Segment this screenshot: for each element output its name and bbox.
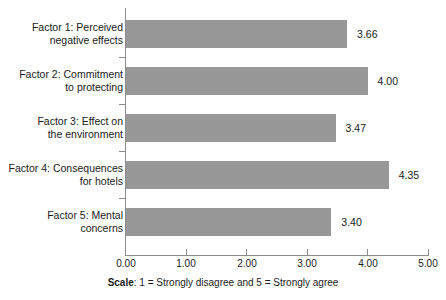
y-axis-tick [119,104,126,105]
bar-factor-2[interactable] [126,67,368,95]
category-label-factor-2: Factor 2: Commitment to protecting [5,68,123,94]
plot-area: 3.66 4.00 3.47 4.35 3.40 [126,8,428,255]
horizontal-bar-chart: Factor 1: Perceived negative effects Fac… [0,0,446,300]
x-axis-line [125,255,429,256]
bar-factor-4[interactable] [126,161,389,189]
x-axis-tick-label: 5.00 [408,258,446,269]
category-label-factor-5: Factor 5: Mental concerns [5,209,123,235]
category-label-line: for hotels [5,175,123,188]
category-label-line: Factor 2: Commitment [5,68,123,81]
x-axis-tick-label: 3.00 [287,258,327,269]
category-label-line: Factor 1: Perceived [5,21,123,34]
category-label-line: the environment [5,128,123,141]
chart-caption: Scale: 1 = Strongly disagree and 5 = Str… [0,277,446,288]
x-axis-tick-label: 0.00 [106,258,146,269]
bar-factor-5[interactable] [126,208,331,236]
caption-bold-prefix: Scale [108,277,134,288]
category-label-line: Factor 4: Consequences [5,162,123,175]
bar-value-label-factor-3: 3.47 [346,114,366,142]
category-label-factor-3: Factor 3: Effect on the environment [5,115,123,141]
bar-factor-1[interactable] [126,20,347,48]
y-axis-tick [119,57,126,58]
bar-value-label-factor-2: 4.00 [378,67,398,95]
x-axis-tick [428,249,429,256]
bar-value-label-factor-1: 3.66 [357,20,377,48]
category-label-line: Factor 5: Mental [5,209,123,222]
category-label-factor-1: Factor 1: Perceived negative effects [5,21,123,47]
x-axis-tick-label: 2.00 [227,258,267,269]
category-label-line: to protecting [5,81,123,94]
category-label-line: concerns [5,222,123,235]
bar-value-label-factor-5: 3.40 [341,208,361,236]
category-label-factor-4: Factor 4: Consequences for hotels [5,162,123,188]
x-axis-tick-label: 4.00 [348,258,388,269]
y-axis-tick [119,151,126,152]
y-axis-tick [119,198,126,199]
category-label-line: Factor 3: Effect on [5,115,123,128]
caption-text: 1 = Strongly disagree and 5 = Strongly a… [139,277,338,288]
bar-factor-3[interactable] [126,114,336,142]
category-label-line: negative effects [5,34,123,47]
bar-value-label-factor-4: 4.35 [399,161,419,189]
x-axis-tick-label: 1.00 [166,258,206,269]
category-axis-labels: Factor 1: Perceived negative effects Fac… [0,0,123,300]
